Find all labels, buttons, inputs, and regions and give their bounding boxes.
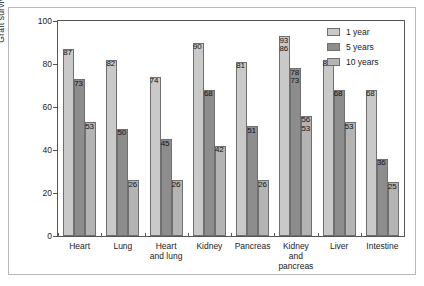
- bar-secondary-value-label: 53: [301, 125, 315, 134]
- bar: 42: [215, 21, 226, 236]
- legend-item: 5 years: [327, 42, 401, 52]
- bar: 26: [172, 21, 183, 236]
- x-category-label: Heartand lung: [145, 241, 188, 261]
- x-category-label: Intestine: [361, 241, 404, 251]
- x-category-line: Intestine: [361, 241, 404, 251]
- bar: 87: [63, 21, 74, 236]
- x-category-line: and lung: [145, 251, 188, 261]
- x-category-line: pancreas: [274, 261, 317, 271]
- bar: 51: [247, 21, 258, 236]
- chart-figure: Graft survival (%) 020406080100 87735382…: [0, 0, 424, 286]
- bar: 81: [236, 21, 247, 236]
- legend-item: 10 years: [327, 57, 401, 67]
- x-category-label: Pancreas: [231, 241, 274, 251]
- bar-fill: [117, 129, 128, 237]
- y-tick-label: 20: [26, 188, 52, 198]
- y-tick-label: 40: [26, 145, 52, 155]
- legend-swatch: [327, 43, 340, 51]
- x-category-line: Kidney: [274, 241, 317, 251]
- legend-label: 10 years: [346, 57, 379, 67]
- bar-fill: [150, 77, 161, 236]
- bar-fill: [334, 90, 345, 236]
- bar: 26: [258, 21, 269, 236]
- bar: 9386: [279, 21, 290, 236]
- bar-fill: [215, 146, 226, 236]
- bar-fill: [279, 36, 290, 236]
- bar-group: 825026: [101, 21, 144, 236]
- x-category-line: Heart: [58, 241, 101, 251]
- bar-fill: [63, 49, 74, 236]
- bar-group: 815126: [231, 21, 274, 236]
- bar-fill: [377, 159, 388, 236]
- x-category-line: Kidney: [188, 241, 231, 251]
- bar: 26: [128, 21, 139, 236]
- bar-group: 906842: [188, 21, 231, 236]
- legend-swatch: [327, 58, 340, 66]
- legend-swatch: [327, 28, 340, 36]
- bar-fill: [290, 68, 301, 236]
- bar-value-label: 26: [258, 181, 272, 190]
- bar-fill: [236, 62, 247, 236]
- bar-value-label: 53: [85, 123, 99, 132]
- x-tick-mark: [404, 233, 405, 237]
- bar: 50: [117, 21, 128, 236]
- bar: 45: [161, 21, 172, 236]
- legend-label: 5 years: [346, 42, 374, 52]
- y-tick-label: 80: [26, 59, 52, 69]
- bar-fill: [366, 90, 377, 236]
- y-axis-label: Graft survival (%): [0, 0, 6, 78]
- x-category-label: Heart: [58, 241, 101, 251]
- bar-fill: [74, 79, 85, 236]
- bar: 7873: [290, 21, 301, 236]
- bar: 82: [106, 21, 117, 236]
- bar-fill: [85, 122, 96, 236]
- x-category-line: Liver: [318, 241, 361, 251]
- x-category-label: Liver: [318, 241, 361, 251]
- y-tick-label: 100: [26, 16, 52, 26]
- bar: 5653: [301, 21, 312, 236]
- bar-group: 938678735653: [274, 21, 317, 236]
- bar-fill: [161, 139, 172, 236]
- bar-value-label: 42: [215, 146, 229, 155]
- bar-value-label: 26: [172, 181, 186, 190]
- bar: 90: [193, 21, 204, 236]
- x-category-line: and: [274, 251, 317, 261]
- x-category-line: Pancreas: [231, 241, 274, 251]
- chart-legend: 1 year5 years10 years: [327, 27, 401, 72]
- legend-label: 1 year: [346, 27, 370, 37]
- bar-fill: [247, 126, 258, 236]
- x-category-line: Heart: [145, 241, 188, 251]
- bar-value-label: 25: [388, 183, 402, 192]
- bar: 73: [74, 21, 85, 236]
- bar-fill: [301, 116, 312, 236]
- bar-fill: [193, 43, 204, 237]
- bar-group: 877353: [58, 21, 101, 236]
- bar-fill: [345, 122, 356, 236]
- bar: 68: [204, 21, 215, 236]
- x-category-label: Kidneyandpancreas: [274, 241, 317, 271]
- bar-fill: [204, 90, 215, 236]
- x-category-label: Lung: [101, 241, 144, 251]
- x-category-line: Lung: [101, 241, 144, 251]
- bar-fill: [323, 60, 334, 236]
- x-tick-mark: [58, 233, 59, 237]
- x-category-label: Kidney: [188, 241, 231, 251]
- legend-item: 1 year: [327, 27, 401, 37]
- bar: 74: [150, 21, 161, 236]
- bar-fill: [106, 60, 117, 236]
- y-tick-label: 60: [26, 102, 52, 112]
- y-tick-label: 0: [26, 231, 52, 241]
- bar-value-label: 26: [128, 181, 142, 190]
- bar-value-label: 53: [345, 123, 359, 132]
- bar: 53: [85, 21, 96, 236]
- bar-group: 744526: [145, 21, 188, 236]
